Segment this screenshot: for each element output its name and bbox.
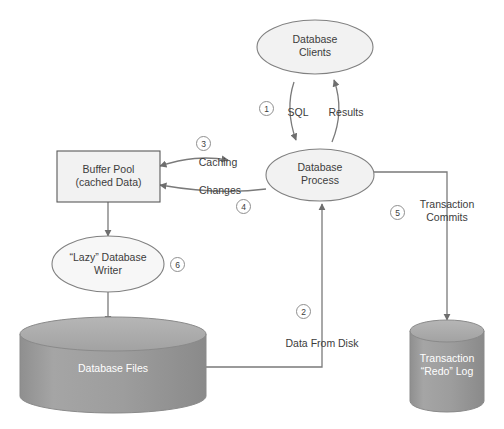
edge-label-sql: SQL <box>281 106 315 119</box>
edge-label-transaction-commits-line1: Transaction <box>407 198 487 211</box>
node-database-files-shape[interactable] <box>20 317 206 413</box>
edge-label-transaction-commits: Transaction Commits <box>407 198 487 224</box>
step-badge-6[interactable]: 6 <box>170 257 185 272</box>
step-badge-5[interactable]: 5 <box>390 205 405 220</box>
edge-transaction-commits-line <box>374 172 447 320</box>
edge-label-results: Results <box>320 106 372 119</box>
step-badge-2[interactable]: 2 <box>296 304 311 319</box>
edge-label-data-from-disk: Data From Disk <box>270 337 374 350</box>
step-badge-3[interactable]: 3 <box>196 136 211 151</box>
edge-label-changes: Changes <box>190 184 250 197</box>
step-badge-4[interactable]: 4 <box>236 199 251 214</box>
node-buffer-pool-shape[interactable] <box>57 151 160 202</box>
step-badge-1[interactable]: 1 <box>259 101 274 116</box>
edge-label-transaction-commits-line2: Commits <box>407 211 487 224</box>
node-database-clients-shape[interactable] <box>257 20 373 74</box>
diagram-canvas: Database Clients Database Process Buffer… <box>0 0 504 429</box>
node-database-process-shape[interactable] <box>266 149 374 201</box>
node-transaction-log-shape[interactable] <box>410 320 484 412</box>
node-lazy-writer-shape[interactable] <box>52 236 164 292</box>
edge-label-caching: Caching <box>190 156 246 169</box>
